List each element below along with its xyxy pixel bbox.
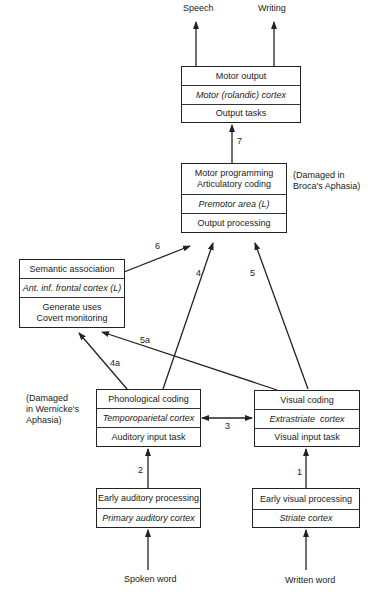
motor-programming-box: Motor programming Articulatory coding Pr… xyxy=(181,163,287,233)
motor-output-task: Output tasks xyxy=(182,104,300,122)
motor-output-region: Motor (rolandic) cortex xyxy=(182,85,300,104)
pathway-label-5a: 5a xyxy=(140,335,150,346)
motor-programming-region: Premotor area (L) xyxy=(182,194,286,213)
motor-programming-function: Motor programming Articulatory coding xyxy=(182,164,286,194)
phonological-coding-box: Phonological coding Temporoparietal cort… xyxy=(96,389,201,447)
semantic-function: Semantic association xyxy=(20,260,124,278)
broca-damage-note: (Damaged in Broca's Aphasia) xyxy=(293,170,360,192)
pathway-label-5: 5 xyxy=(250,268,255,279)
output-label-writing: Writing xyxy=(258,3,286,14)
semantic-region: Ant. inf. frontal cortex (L) xyxy=(20,278,124,297)
phonological-region: Temporoparietal cortex xyxy=(97,408,200,427)
motor-output-function: Motor output xyxy=(182,67,300,85)
semantic-tasks: Generate uses Covert monitoring xyxy=(20,297,124,327)
early-auditory-box: Early auditory processing Primary audito… xyxy=(96,488,201,528)
wernicke-damage-note: (Damaged in Wernicke's Aphasia) xyxy=(26,393,79,426)
input-label-spoken-word: Spoken word xyxy=(124,574,177,585)
pathway-label-4: 4 xyxy=(196,268,201,279)
visual-function: Visual coding xyxy=(255,391,359,409)
pathway-label-1: 1 xyxy=(297,467,302,478)
early-visual-function: Early visual processing xyxy=(253,489,359,509)
visual-coding-box: Visual coding Extrastriate cortex Visual… xyxy=(254,390,360,447)
visual-task: Visual input task xyxy=(255,428,359,446)
output-label-speech: Speech xyxy=(183,3,214,14)
semantic-association-box: Semantic association Ant. inf. frontal c… xyxy=(19,259,125,328)
pathway-label-7: 7 xyxy=(237,136,242,147)
pathway-label-2: 2 xyxy=(138,465,143,476)
pathway-label-4a: 4a xyxy=(110,358,120,369)
early-auditory-region: Primary auditory cortex xyxy=(97,508,200,527)
phonological-task: Auditory input task xyxy=(97,427,200,446)
motor-programming-task: Output processing xyxy=(182,213,286,232)
motor-output-box: Motor output Motor (rolandic) cortex Out… xyxy=(181,66,301,123)
input-label-written-word: Written word xyxy=(285,575,335,586)
pathway-label-3: 3 xyxy=(225,421,230,432)
phonological-function: Phonological coding xyxy=(97,390,200,408)
early-visual-box: Early visual processing Striate cortex xyxy=(252,488,360,528)
early-visual-region: Striate cortex xyxy=(253,509,359,527)
early-auditory-function: Early auditory processing xyxy=(97,489,200,508)
pathway-label-6: 6 xyxy=(155,241,160,252)
visual-region: Extrastriate cortex xyxy=(255,409,359,428)
